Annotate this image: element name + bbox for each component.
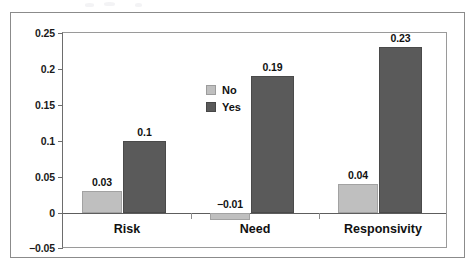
bar-value-need-no: −0.01 [204, 199, 256, 210]
y-tick-label: 0.2 [7, 64, 55, 75]
bar-value-responsivity-no: 0.04 [335, 170, 381, 181]
category-label-need: Need [191, 223, 319, 236]
category-label-responsivity: Responsivity [315, 223, 451, 236]
bar-value-need-yes: 0.19 [249, 62, 296, 73]
bar-risk-no[interactable] [82, 191, 122, 213]
legend: No Yes [206, 83, 241, 117]
bars-layer: 0.03 0.1 Risk −0.01 0.19 Need [63, 33, 446, 247]
y-tick-label: 0.15 [7, 100, 55, 111]
legend-item-yes[interactable]: Yes [206, 100, 241, 114]
category-group-responsivity: 0.04 0.23 Responsivity [319, 33, 447, 247]
y-tick-mark [58, 248, 63, 249]
plot-area: 0.25 0.2 0.15 0.1 0.05 0 −0.05 0.03 [62, 32, 447, 248]
legend-label-no: No [222, 85, 237, 96]
bar-value-risk-yes: 0.1 [123, 127, 166, 138]
legend-label-yes: Yes [222, 102, 241, 113]
category-label-risk: Risk [63, 223, 191, 236]
scan-artifact [135, 3, 142, 7]
bar-responsivity-yes[interactable] [379, 47, 422, 213]
bar-value-risk-no: 0.03 [82, 177, 122, 188]
scan-artifact [104, 2, 115, 6]
bar-need-yes[interactable] [251, 76, 294, 213]
y-tick-label: −0.05 [7, 243, 55, 254]
legend-swatch-no-icon [206, 85, 216, 95]
bar-responsivity-no[interactable] [338, 184, 378, 213]
legend-item-no[interactable]: No [206, 83, 241, 97]
category-group-need: −0.01 0.19 Need [191, 33, 319, 247]
y-tick-label: 0.1 [7, 136, 55, 147]
category-group-risk: 0.03 0.1 Risk [63, 33, 191, 247]
y-tick-label: 0.05 [7, 172, 55, 183]
chart-figure: 0.25 0.2 0.15 0.1 0.05 0 −0.05 0.03 [0, 0, 476, 270]
legend-swatch-yes-icon [206, 102, 216, 112]
bar-risk-yes[interactable] [123, 141, 166, 213]
bar-need-no[interactable] [210, 213, 250, 220]
y-tick-label: 0.25 [7, 28, 55, 39]
y-tick-label: 0 [7, 208, 55, 219]
scan-artifact [85, 3, 94, 7]
bar-value-responsivity-yes: 0.23 [377, 33, 424, 44]
